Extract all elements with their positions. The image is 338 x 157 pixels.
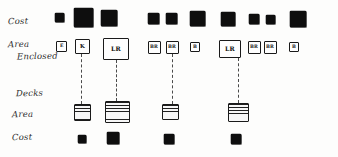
decks-area-square[interactable] xyxy=(228,103,249,122)
cost-square-top[interactable] xyxy=(221,12,235,26)
area-enclosed-box[interactable]: B xyxy=(289,42,299,52)
cost-square-top[interactable] xyxy=(148,13,159,24)
area-enclosed-box-label: BR xyxy=(168,45,176,50)
cost-square-top[interactable] xyxy=(266,15,275,24)
area-enclosed-box-label: LR xyxy=(225,46,235,52)
row-label-cost-top: Cost xyxy=(8,16,28,26)
cost-square-bottom[interactable] xyxy=(164,134,174,144)
cost-square-top[interactable] xyxy=(290,11,306,27)
cost-square-bottom[interactable] xyxy=(231,134,241,144)
area-enclosed-box-label: BR xyxy=(266,45,274,50)
row-label-area-enclosed-line2: Enclosed xyxy=(17,51,58,62)
row-label-area-bottom: Area xyxy=(12,109,33,119)
area-enclosed-box[interactable]: BR xyxy=(248,41,261,54)
row-label-cost-bottom: Cost xyxy=(12,132,32,142)
area-enclosed-box-label: E xyxy=(60,44,64,49)
dashed-connector xyxy=(81,54,82,104)
cost-square-top[interactable] xyxy=(166,13,177,24)
area-enclosed-box-label: LR xyxy=(111,46,121,52)
decks-area-square[interactable] xyxy=(105,101,130,123)
decks-area-square[interactable] xyxy=(162,104,179,120)
cost-square-bottom[interactable] xyxy=(78,135,86,143)
cost-square-top[interactable] xyxy=(55,13,64,22)
area-enclosed-box[interactable]: BR xyxy=(148,41,161,54)
row-label-decks: Decks xyxy=(16,88,43,99)
cost-square-top[interactable] xyxy=(101,10,117,26)
area-enclosed-box[interactable]: B xyxy=(190,42,200,52)
area-enclosed-box[interactable]: LR xyxy=(219,40,241,58)
area-enclosed-box-label: BR xyxy=(150,45,158,50)
dashed-connector xyxy=(172,54,173,104)
area-enclosed-box[interactable]: LR xyxy=(103,38,129,60)
cost-square-top[interactable] xyxy=(74,8,93,27)
area-enclosed-box-label: B xyxy=(193,45,197,50)
cost-square-bottom[interactable] xyxy=(107,132,119,144)
cost-square-top[interactable] xyxy=(190,11,205,26)
area-enclosed-box-label: K xyxy=(80,44,85,49)
area-enclosed-box[interactable]: BR xyxy=(166,41,179,54)
area-enclosed-box[interactable]: K xyxy=(75,39,90,54)
diagram-canvas: Cost Area Enclosed Decks Area Cost EKLRB… xyxy=(0,0,338,157)
area-enclosed-box-label: B xyxy=(292,45,296,50)
decks-area-square[interactable] xyxy=(74,104,91,121)
area-enclosed-box-label: BR xyxy=(250,45,258,50)
area-enclosed-box[interactable]: E xyxy=(56,41,67,52)
cost-square-top[interactable] xyxy=(249,14,259,24)
area-enclosed-box[interactable]: BR xyxy=(264,41,277,54)
row-label-area-enclosed-line1: Area xyxy=(8,39,29,49)
dashed-connector xyxy=(116,60,117,101)
dashed-connector xyxy=(238,58,239,103)
